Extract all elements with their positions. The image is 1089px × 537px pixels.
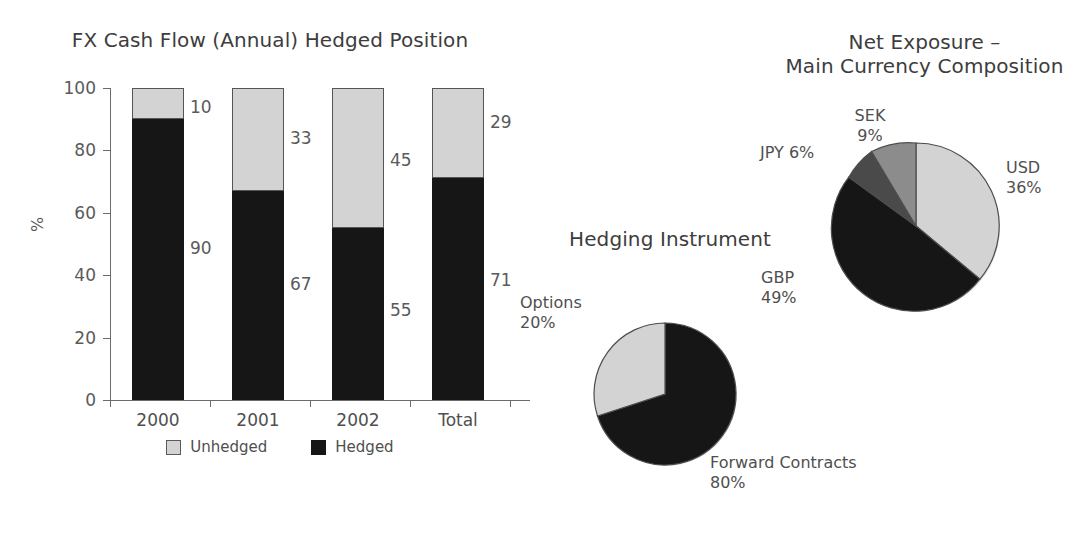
legend-swatch-unhedged-icon [166,440,181,455]
fx-cash-flow-bar-chart: FX Cash Flow (Annual) Hedged Position % … [0,0,540,500]
legend-item-unhedged: Unhedged [166,438,267,456]
bar-segment-unhedged [232,88,284,191]
bar-chart-legend: Unhedged Hedged [120,438,440,456]
x-tick-end [510,401,511,407]
table-row [232,88,284,400]
bar-segment-hedged [232,191,284,400]
x-axis-label-2000: 2000 [103,410,213,430]
legend-label-hedged: Hedged [335,438,393,456]
value-label-hedged-2002: 55 [390,300,412,320]
y-tick-100: 100 [103,88,110,89]
x-axis-label-2002: 2002 [303,410,413,430]
y-tick-label-0: 0 [85,390,96,410]
table-row [332,88,384,400]
table-row [132,88,184,400]
y-tick-80: 80 [103,150,110,151]
net-exposure-pie-chart: Net Exposure – Main Currency Composition… [760,18,1089,338]
value-label-hedged-2001: 67 [290,274,312,294]
y-tick-40: 40 [103,275,110,276]
legend-swatch-hedged-icon [311,440,326,455]
hedging-label-forward-contracts: Forward Contracts 80% [710,453,857,492]
bar-segment-unhedged [432,88,484,178]
x-tick-1 [210,401,211,407]
x-axis-label-total: Total [403,410,513,430]
bar-segment-unhedged [332,88,384,228]
hedging-label-options: Options 20% [520,293,582,332]
y-tick-label-20: 20 [74,328,96,348]
currency-label-gbp: GBP 49% [761,268,797,307]
y-tick-label-40: 40 [74,265,96,285]
legend-label-unhedged: Unhedged [190,438,267,456]
y-tick-label-100: 100 [64,78,96,98]
currency-label-jpy: JPY 6% [760,143,814,163]
legend-item-hedged: Hedged [311,438,393,456]
x-tick-2 [310,401,311,407]
bar-segment-hedged [432,178,484,400]
x-axis-label-2001: 2001 [203,410,313,430]
bar-chart-title: FX Cash Flow (Annual) Hedged Position [0,28,540,52]
bar-segment-hedged [132,119,184,400]
y-tick-60: 60 [103,213,110,214]
y-tick-20: 20 [103,338,110,339]
x-tick-3 [410,401,411,407]
y-tick-label-60: 60 [74,203,96,223]
bar-segment-unhedged [132,88,184,119]
value-label-unhedged-2001: 33 [290,128,312,148]
value-label-unhedged-2002: 45 [390,150,412,170]
bar-segment-hedged [332,228,384,400]
y-tick-label-80: 80 [74,140,96,160]
value-label-unhedged-total: 29 [490,112,512,132]
currency-label-sek: SEK 9% [840,106,900,145]
y-tick-0: 0 [103,400,110,401]
x-axis-line [110,400,530,401]
y-axis-label: % [28,217,47,232]
currency-label-usd: USD 36% [1006,158,1042,197]
x-tick-start [110,401,111,407]
value-label-hedged-2000: 90 [190,238,212,258]
value-label-hedged-total: 71 [490,270,512,290]
value-label-unhedged-2000: 10 [190,97,212,117]
table-row [432,88,484,400]
